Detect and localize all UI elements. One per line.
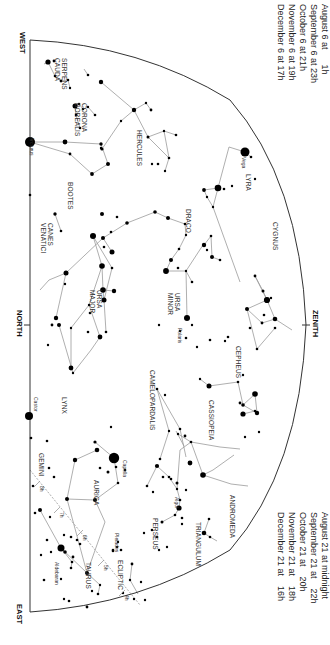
constellation-line	[209, 382, 238, 386]
star	[110, 250, 115, 255]
star	[175, 134, 178, 137]
star	[210, 255, 214, 259]
star	[168, 430, 170, 432]
constellation-label: URSA	[96, 290, 103, 309]
star	[177, 267, 180, 270]
star	[239, 402, 242, 405]
constellation-label: CAMELOPARDALIS	[149, 370, 156, 431]
constellation-label: DRACO	[185, 209, 192, 233]
star	[99, 263, 105, 269]
star	[100, 212, 104, 216]
star	[98, 335, 103, 340]
star	[100, 147, 102, 149]
constellation-line	[155, 212, 186, 260]
star	[185, 234, 187, 236]
star	[87, 74, 90, 77]
star	[145, 102, 147, 104]
star	[73, 458, 77, 462]
constellation-label: TAURUS	[85, 562, 92, 589]
star	[129, 579, 131, 581]
star	[166, 546, 168, 548]
observation-time: November 21 at 18h	[287, 512, 297, 601]
observation-time: October 21 at 20h	[298, 512, 308, 592]
star	[143, 532, 145, 534]
star	[249, 327, 252, 330]
star-name-label: Arcturus	[29, 137, 35, 156]
star	[71, 561, 74, 564]
star	[258, 431, 260, 433]
star	[176, 488, 178, 490]
star	[72, 556, 75, 559]
star	[206, 249, 208, 251]
star	[94, 114, 97, 117]
star	[151, 163, 153, 165]
star	[164, 394, 166, 396]
star	[112, 550, 115, 553]
star	[45, 59, 50, 64]
star	[166, 216, 170, 220]
star	[63, 534, 65, 536]
star	[57, 323, 61, 327]
star	[63, 140, 68, 145]
star	[273, 317, 278, 322]
star	[254, 178, 256, 180]
star	[58, 545, 65, 552]
star	[25, 412, 33, 420]
star-name-label: Pleiades	[114, 533, 120, 553]
star	[97, 593, 100, 596]
constellation-label: URSA	[174, 293, 181, 312]
star	[109, 453, 119, 463]
constellation-line	[104, 300, 106, 332]
constellation-line	[103, 212, 155, 238]
star	[60, 230, 63, 233]
constellation-line	[275, 319, 292, 330]
constellation-line	[101, 82, 134, 110]
star	[116, 216, 119, 219]
star-name-label: Castor	[33, 397, 39, 412]
ecliptic-hour-label: 7h	[59, 512, 65, 518]
star	[185, 337, 188, 340]
star	[70, 327, 72, 329]
constellation-label: HERCULES	[136, 130, 143, 167]
star	[261, 322, 264, 325]
star-chart: SERPENSCAUDACORONABOREALISHERCULESBOOTES…	[0, 0, 330, 645]
star	[117, 482, 120, 485]
star	[174, 514, 177, 517]
star	[146, 485, 149, 488]
star	[120, 120, 122, 122]
observation-times-top: August 6 at 1hSeptember 6 at 23hOctober …	[276, 4, 330, 83]
star	[115, 466, 118, 469]
constellation-line	[247, 309, 275, 349]
star	[125, 221, 129, 225]
star	[111, 267, 114, 270]
direction-zenith: ZENITH	[311, 310, 320, 337]
star	[184, 315, 190, 321]
star	[223, 188, 226, 191]
constellation-label: AURIGA	[93, 480, 100, 506]
constellation-line	[66, 238, 103, 273]
star	[79, 543, 82, 546]
constellation-line	[134, 103, 151, 110]
constellation-label: CAUDA	[54, 58, 61, 82]
star	[47, 344, 49, 346]
constellation-label: CASSIOPEIA	[208, 400, 215, 441]
star	[178, 248, 181, 251]
star	[95, 448, 100, 453]
star	[49, 516, 51, 518]
star	[184, 435, 187, 438]
constellation-label: CORONA	[81, 103, 88, 133]
ecliptic-hour-label: 6h	[82, 535, 88, 541]
constellation-label: ECLIPTIC	[117, 560, 124, 590]
constellation-line	[73, 337, 100, 373]
constellation-line	[71, 305, 89, 368]
star	[157, 163, 160, 166]
star	[107, 471, 110, 474]
star	[262, 290, 265, 293]
star	[105, 331, 108, 334]
stars	[25, 59, 277, 608]
star	[191, 324, 193, 326]
star	[209, 339, 212, 342]
star	[69, 153, 72, 156]
star	[163, 130, 165, 132]
star	[244, 436, 246, 438]
